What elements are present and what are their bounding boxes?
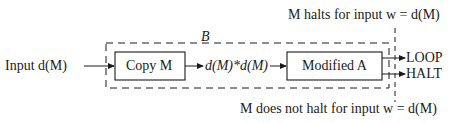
outer-box-label: B: [201, 30, 210, 44]
halt-label: HALT: [406, 67, 442, 81]
copy-m-label: Copy M: [126, 59, 172, 73]
loop-label: LOOP: [406, 51, 443, 65]
bottom-annotation: M does not halt for input w = d(M): [240, 102, 437, 116]
modified-a-label: Modified A: [302, 59, 367, 73]
input-label: Input d(M): [5, 59, 67, 73]
top-annotation: M halts for input w = d(M): [288, 8, 440, 22]
intermediate-label: d(M)*d(M): [205, 59, 268, 73]
